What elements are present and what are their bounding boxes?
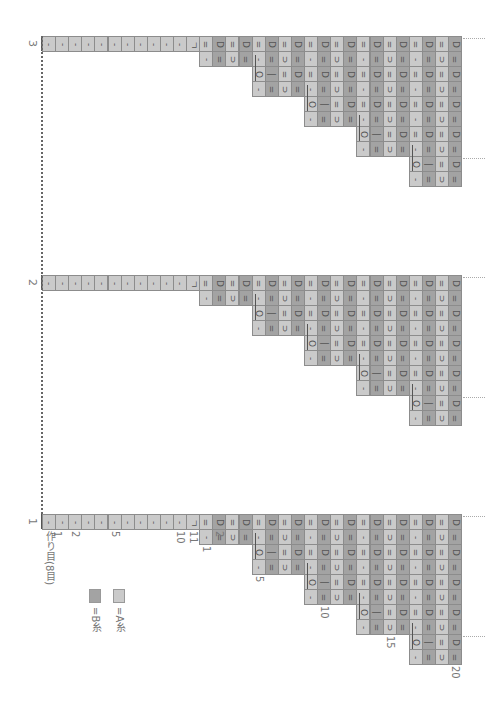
stitch-symbol: = [424,324,433,332]
stitch-cell: = [225,36,239,52]
stitch-symbol: = [398,623,407,631]
stitch-cell: = [383,574,397,590]
stitch-symbol: = [385,70,394,78]
stitch-cell: = [278,36,292,52]
stitch-cell: = [265,529,279,545]
cast-on-stitch: - [81,514,95,530]
cast-on-stitch: - [42,275,56,291]
stitch-cell: = [330,275,344,291]
stitch-cell: - [304,589,318,605]
stitch-cell: = [252,514,266,530]
stitch-cell: = [422,350,436,366]
stitch-cell: D [370,544,384,560]
stitch-cell: - [356,141,370,157]
stitch-cell: = [422,619,436,635]
stitch-symbol: = [451,55,460,63]
stitch-cell: ⊃ [225,529,239,545]
stitch-symbol: D [424,579,433,586]
stitch-symbol: D [398,609,407,616]
stitch-symbol: - [202,57,211,60]
stitch-cell: = [370,380,384,396]
stitch-symbol: ㄱ [189,518,198,526]
stitch-cell: D [396,36,410,52]
stitch-cell: = [409,66,423,82]
stitch-symbol: D [372,579,381,586]
stitch-cell: D [343,96,357,112]
stitch-symbol: ⊃ [333,85,342,93]
stitch-cell: = [291,81,305,97]
stitch-cell: = [422,649,436,665]
stitch-cell: = [370,320,384,336]
stitch-cell: - [409,81,423,97]
stitch-symbol: - [149,42,158,45]
stitch-cell: D [317,305,331,321]
stitch-symbol: = [267,563,276,571]
stitch-cell: D [422,514,436,530]
stitch-symbol: D [451,609,460,616]
stitch-symbol: ⊃ [385,533,394,541]
stitch-symbol: - [149,520,158,523]
stitch-symbol: - [411,57,420,60]
stitch-symbol: = [385,309,394,317]
stitch-cell: ⊃ [383,51,397,67]
stitch-symbol: = [385,548,394,556]
stitch-cell: = [422,290,436,306]
stitch-cell: D [396,335,410,351]
stitch-cell: = [356,36,370,52]
stitch-cell: = [435,275,449,291]
stitch-symbol: = [438,279,447,287]
stitch-symbol: = [320,563,329,571]
chart-number-label: 3 [26,40,39,47]
stitch-cell: D [317,514,331,530]
stitch-cell: ⊃ [330,350,344,366]
stitch-cell: | [265,544,279,560]
legend-swatch-a [113,589,125,603]
stitch-cell: D [265,275,279,291]
stitch-cell: D [448,574,462,590]
stitch-symbol: ⊃ [280,85,289,93]
stitch-symbol: - [71,520,80,523]
stitch-cell: D [396,275,410,291]
stitch-symbol: = [411,70,420,78]
stitch-symbol: = [451,384,460,392]
cast-on-stitch: - [160,514,174,530]
stitch-symbol: = [424,175,433,183]
stitch-symbol: = [307,40,316,48]
stitch-cell: = [435,544,449,560]
cast-on-stitch: - [121,514,135,530]
stitch-symbol: | [267,311,276,314]
stitch-cell: = [343,290,357,306]
stitch-symbol: D [267,519,276,526]
stitch-symbol: = [372,563,381,571]
stitch-cell: = [396,141,410,157]
stitch-number-label: 2 [70,531,80,537]
stitch-cell: ⊃ [278,529,292,545]
stitch-symbol: = [372,324,381,332]
repeat-guide-line [463,636,485,637]
stitch-symbol: | [424,162,433,165]
stitch-symbol: D [215,41,224,48]
stitch-cell: D [396,514,410,530]
stitch-symbol: = [438,160,447,168]
stitch-symbol: ⊃ [385,55,394,63]
stitch-cell: = [343,320,357,336]
stitch-cell: D [370,36,384,52]
stitch-symbol: = [411,518,420,526]
stitch-cell: D [370,96,384,112]
stitch-symbol: ⊃ [438,354,447,362]
stitch-symbol: = [307,518,316,526]
stitch-symbol: = [451,563,460,571]
cast-on-stitch: ㄱ [186,36,200,52]
stitch-symbol: - [307,296,316,299]
stitch-cell: = [343,529,357,545]
stitch-symbol: = [320,294,329,302]
stitch-symbol: ⊃ [385,593,394,601]
stitch-cell: = [252,36,266,52]
stitch-cell: - [409,350,423,366]
stitch-cell: = [396,51,410,67]
cast-on-caption: 作り目(8目) [44,531,54,585]
cast-on-stitch: - [147,36,161,52]
stitch-cell: D [370,514,384,530]
stitch-symbol: D [320,310,329,317]
repeat-guide-line [463,516,485,517]
